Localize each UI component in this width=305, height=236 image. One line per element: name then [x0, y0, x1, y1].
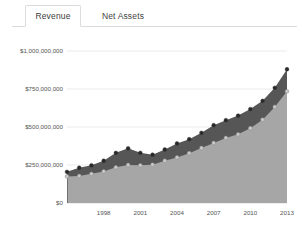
data-point-net-assets [248, 126, 252, 130]
data-point-revenue [163, 148, 167, 152]
x-axis-tick-label: 2010 [243, 209, 257, 216]
data-point-revenue [273, 86, 277, 90]
x-axis-tick-label: 2013 [280, 209, 294, 216]
data-point-net-assets [126, 163, 130, 167]
x-axis-tick-label: 2004 [170, 209, 184, 216]
data-point-net-assets [90, 172, 94, 176]
revenue-chart-panel: Revenue Net Assets $1,000,000,000$750,00… [0, 0, 305, 236]
tab-bar: Revenue Net Assets [0, 0, 305, 27]
data-point-net-assets [224, 136, 228, 140]
chart-area: $1,000,000,000$750,000,000$500,000,000$2… [0, 27, 305, 236]
data-point-net-assets [200, 146, 204, 150]
data-point-net-assets [77, 174, 81, 178]
tab-net-assets[interactable]: Net Assets [92, 5, 154, 27]
data-point-revenue [175, 142, 179, 146]
data-point-revenue [248, 107, 252, 111]
data-point-revenue [65, 170, 69, 174]
data-point-revenue [236, 114, 240, 118]
y-axis-tick-label: $1,000,000,000 [20, 47, 64, 54]
data-point-net-assets [102, 169, 106, 173]
data-point-net-assets [273, 105, 277, 109]
data-point-revenue [285, 67, 289, 71]
data-point-revenue [102, 159, 106, 163]
y-axis-labels: $1,000,000,000$750,000,000$500,000,000$2… [20, 47, 64, 206]
data-point-net-assets [212, 141, 216, 145]
tab-net-assets-label: Net Assets [102, 11, 144, 21]
data-point-net-assets [114, 165, 118, 169]
data-point-revenue [224, 118, 228, 122]
data-point-revenue [261, 99, 265, 103]
data-point-net-assets [138, 163, 142, 167]
x-axis-tick-label: 2007 [207, 209, 221, 216]
x-axis-tick-label: 2001 [133, 209, 147, 216]
y-axis-tick-label: $0 [56, 199, 63, 206]
data-point-net-assets [236, 132, 240, 136]
data-point-revenue [200, 131, 204, 135]
x-axis-tick-label: 1998 [97, 209, 111, 216]
area-chart: $1,000,000,000$750,000,000$500,000,000$2… [0, 27, 305, 236]
data-point-net-assets [163, 159, 167, 163]
data-point-revenue [126, 146, 130, 150]
data-point-net-assets [151, 163, 155, 167]
data-point-revenue [138, 151, 142, 155]
data-point-revenue [90, 163, 94, 167]
data-point-net-assets [175, 156, 179, 160]
data-point-net-assets [285, 89, 289, 93]
data-point-net-assets [187, 151, 191, 155]
x-axis-labels: 199820012004200720102013 [97, 209, 295, 216]
tab-revenue[interactable]: Revenue [25, 5, 81, 27]
data-point-revenue [187, 137, 191, 141]
data-point-revenue [212, 123, 216, 127]
data-point-net-assets [65, 175, 69, 179]
data-point-net-assets [261, 118, 265, 122]
y-axis-tick-label: $750,000,000 [25, 85, 63, 92]
y-axis-tick-label: $250,000,000 [25, 161, 63, 168]
data-point-revenue [151, 153, 155, 157]
data-point-revenue [114, 151, 118, 155]
tab-revenue-label: Revenue [35, 11, 70, 21]
y-axis-tick-label: $500,000,000 [25, 123, 63, 130]
data-point-revenue [77, 166, 81, 170]
